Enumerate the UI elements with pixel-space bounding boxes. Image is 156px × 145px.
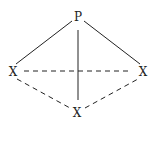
diagram-canvas: P X X X: [0, 0, 156, 145]
bond-p-xleft: [16, 21, 72, 64]
atom-label-x-right: X: [139, 65, 148, 79]
molecule-diagram: P X X X: [0, 0, 156, 145]
atom-label-p: P: [74, 10, 82, 24]
atom-label-x-bottom: X: [73, 106, 82, 120]
edge-xbottom-xright: [85, 79, 138, 108]
edge-xleft-xbottom: [17, 79, 70, 108]
atom-label-x-left: X: [9, 65, 18, 79]
bond-p-xright: [84, 21, 140, 64]
